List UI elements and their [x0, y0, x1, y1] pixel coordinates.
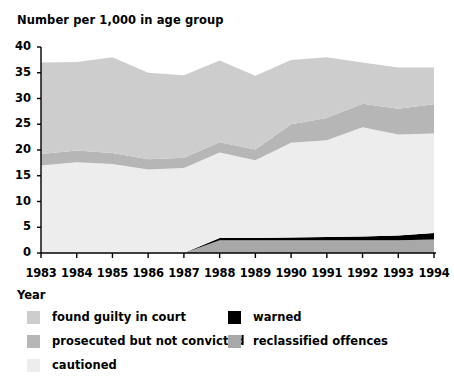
- legend-item[interactable]: reclassified offences: [228, 334, 388, 348]
- x-axis-tick-label: 1984: [57, 266, 97, 280]
- x-axis-tick-label: 1993: [378, 266, 418, 280]
- legend-item-label: found guilty in court: [52, 310, 186, 324]
- legend-item-label: reclassified offences: [253, 334, 388, 348]
- chart-legend: found guilty in courtprosecuted but not …: [0, 310, 447, 380]
- y-axis-tick-label: 40: [5, 39, 31, 53]
- x-axis-tick-label: 1990: [271, 266, 311, 280]
- x-axis-tick-label: 1991: [307, 266, 347, 280]
- legend-item[interactable]: cautioned: [27, 358, 117, 372]
- plot-area: [0, 38, 447, 263]
- x-axis-tick-label: 1987: [164, 266, 204, 280]
- legend-item-label: warned: [253, 310, 302, 324]
- y-axis-tick-label: 10: [5, 194, 31, 208]
- x-axis-tick-label: 1983: [21, 266, 61, 280]
- legend-item-label: cautioned: [52, 358, 117, 372]
- y-axis-tick-label: 5: [5, 219, 31, 233]
- legend-item[interactable]: found guilty in court: [27, 310, 186, 324]
- chart-title: Number per 1,000 in age group: [17, 13, 224, 27]
- x-axis-tick-label: 1988: [200, 266, 240, 280]
- y-axis-tick-label: 0: [5, 245, 31, 259]
- legend-item[interactable]: prosecuted but not convicted: [27, 334, 245, 348]
- x-axis-tick-label: 1989: [235, 266, 275, 280]
- plot-svg: [0, 38, 447, 263]
- y-axis-tick-label: 15: [5, 168, 31, 182]
- legend-swatch-icon: [27, 359, 40, 372]
- x-axis-title: Year: [17, 288, 46, 302]
- legend-item-label: prosecuted but not convicted: [52, 334, 245, 348]
- x-axis-tick-label: 1992: [343, 266, 383, 280]
- x-axis-tick-label: 1994: [414, 266, 454, 280]
- legend-swatch-icon: [228, 311, 241, 324]
- legend-swatch-icon: [27, 335, 40, 348]
- y-axis-tick-label: 35: [5, 65, 31, 79]
- y-axis-tick-label: 25: [5, 116, 31, 130]
- legend-item[interactable]: warned: [228, 310, 302, 324]
- y-axis-tick-label: 30: [5, 91, 31, 105]
- x-axis-tick-label: 1986: [128, 266, 168, 280]
- legend-swatch-icon: [27, 311, 40, 324]
- y-axis-tick-label: 20: [5, 142, 31, 156]
- legend-swatch-icon: [228, 335, 241, 348]
- x-axis-tick-label: 1985: [92, 266, 132, 280]
